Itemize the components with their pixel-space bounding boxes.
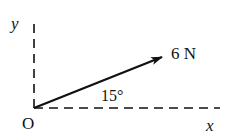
angle-label: 15°	[101, 87, 123, 104]
y-axis-label: y	[9, 14, 19, 33]
origin-label: O	[22, 114, 34, 133]
diagram-canvas: y O x 6 N 15°	[0, 0, 233, 138]
x-axis-label: x	[205, 116, 214, 135]
force-label: 6 N	[171, 44, 196, 63]
force-vector-diagram: y O x 6 N 15°	[0, 0, 233, 138]
force-vector-arrow	[34, 57, 162, 108]
